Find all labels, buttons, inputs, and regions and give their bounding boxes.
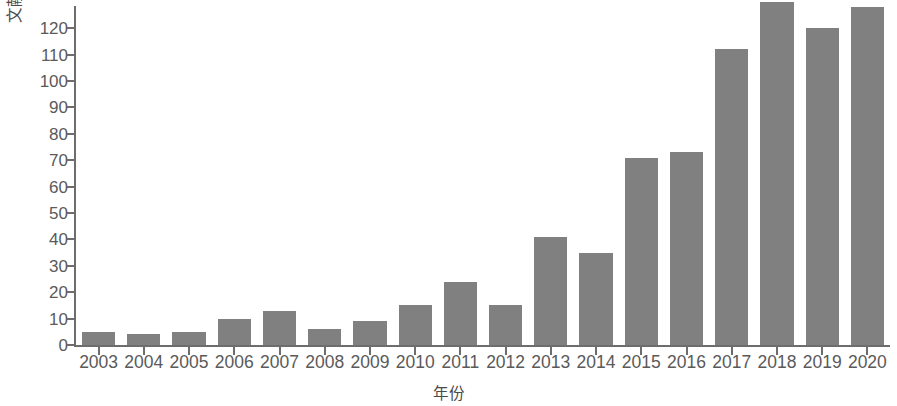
y-tick-label: 0 [26,337,68,354]
bar [127,334,160,345]
bar [218,319,251,345]
x-tick-label: 2007 [260,352,299,373]
x-tick-label: 2008 [305,352,344,373]
y-tick-mark [67,318,74,320]
bar [806,28,839,345]
x-tick-label: 2016 [667,352,706,373]
bar-chart-figure: 文献数量（篇） 0102030405060708090100110120 200… [0,0,897,406]
x-tick-label: 2011 [442,352,480,373]
bar [263,311,296,345]
y-tick-label: 100 [26,73,68,90]
y-tick-label: 10 [26,310,68,327]
y-tick-label: 30 [26,257,68,274]
bar [851,7,884,345]
y-tick-label: 40 [26,231,68,248]
x-tick-label: 2009 [350,352,389,373]
x-axis-title: 年份 [0,381,897,403]
y-tick-mark [67,159,74,161]
y-tick-mark [67,265,74,267]
y-tick-mark [67,27,74,29]
x-tick-label: 2015 [622,352,661,373]
y-tick-label: 70 [26,152,68,169]
x-axis-tick-labels: 2003200420052006200720082009201020112012… [74,352,890,378]
bar [444,282,477,345]
y-axis-tick-labels: 0102030405060708090100110120 [18,0,68,406]
bar [399,305,432,345]
x-tick-label: 2018 [757,352,796,373]
y-tick-mark [67,212,74,214]
bar [579,253,612,345]
y-tick-mark [67,186,74,188]
bar [625,158,658,345]
bar [82,332,115,345]
y-tick-label: 60 [26,178,68,195]
x-tick-label: 2013 [531,352,570,373]
bar [760,2,793,345]
bar [670,152,703,345]
y-tick-mark [67,54,74,56]
y-tick-mark [67,106,74,108]
y-tick-label: 120 [26,20,68,37]
x-tick-label: 2010 [396,352,435,373]
bar [489,305,522,345]
y-tick-label: 90 [26,99,68,116]
y-tick-mark [67,238,74,240]
bar-series [76,6,890,345]
x-tick-label: 2004 [124,352,163,373]
x-tick-label: 2005 [170,352,209,373]
x-axis-spine [74,345,890,347]
bar [172,332,205,345]
x-tick-label: 2003 [79,352,118,373]
y-tick-mark [67,344,74,346]
bar [534,237,567,345]
x-tick-label: 2020 [848,352,887,373]
x-tick-label: 2012 [486,352,525,373]
y-tick-label: 50 [26,205,68,222]
plot-area [74,6,890,347]
bar [715,49,748,345]
y-tick-mark [67,291,74,293]
y-tick-label: 80 [26,125,68,142]
x-tick-label: 2019 [803,352,842,373]
y-tick-mark [67,133,74,135]
bar [308,329,341,345]
y-tick-label: 110 [26,46,68,63]
x-tick-label: 2014 [577,352,616,373]
x-tick-label: 2017 [712,352,751,373]
y-tick-label: 20 [26,284,68,301]
y-tick-mark [67,80,74,82]
bar [353,321,386,345]
x-tick-label: 2006 [215,352,254,373]
